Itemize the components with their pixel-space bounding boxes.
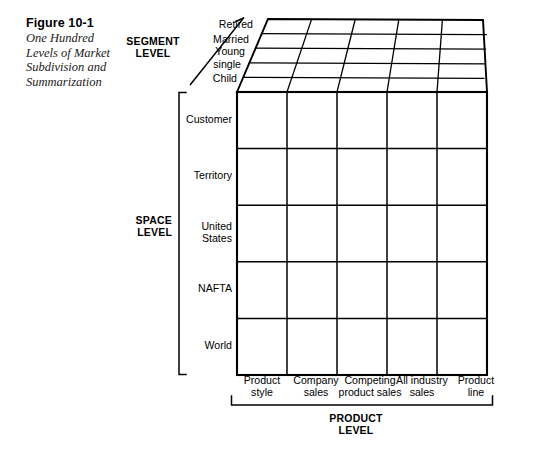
- segment-label-young: Young: [185, 46, 245, 58]
- space-label-nafta-text: NAFTA: [176, 283, 232, 295]
- top-face-col-line-3: [387, 20, 399, 92]
- segment-level-title-line-2: LEVEL: [122, 48, 184, 60]
- segment-label-retired: Retired: [193, 19, 253, 31]
- top-face-row-line-2: [249, 63, 484, 64]
- product-level-title-line-2: LEVEL: [256, 425, 456, 437]
- caption-line-4: Summarization: [26, 75, 146, 90]
- segment-label-married: Married: [189, 34, 249, 46]
- figure-number: Figure 10-1: [26, 16, 146, 30]
- space-level-axis-title: SPACE LEVEL: [120, 215, 172, 238]
- top-face-col-line-1: [287, 19, 312, 92]
- space-label-united-states: United States: [176, 221, 232, 244]
- segment-label-child-text: Child: [177, 73, 237, 85]
- segment-level-axis-title: SEGMENT LEVEL: [122, 36, 184, 59]
- space-label-nafta: NAFTA: [176, 283, 232, 295]
- segment-level-title-line-1: SEGMENT: [122, 36, 184, 48]
- figure-10-1: Figure 10-1 One Hundred Levels of Market…: [0, 0, 544, 458]
- space-label-world: World: [176, 340, 232, 352]
- top-face-outline: [237, 19, 487, 92]
- front-face-outline: [237, 92, 487, 375]
- space-label-territory: Territory: [176, 170, 232, 182]
- top-face-row-line-3: [256, 48, 486, 49]
- segment-label-married-text: Married: [189, 34, 249, 46]
- top-face-col-line-4: [437, 20, 442, 92]
- top-face-row-line-1: [243, 77, 484, 78]
- product-level-axis-title: PRODUCT LEVEL: [256, 413, 456, 436]
- space-label-customer-text: Customer: [176, 114, 232, 126]
- space-label-territory-text: Territory: [176, 170, 232, 182]
- segment-label-retired-text: Retired: [193, 19, 253, 31]
- caption-line-3: Subdivision and: [26, 60, 146, 75]
- product-label-product-line: Product line: [444, 375, 508, 398]
- segment-label-single: single: [181, 59, 241, 71]
- segment-label-young-text: Young: [185, 46, 245, 58]
- space-label-united-states-line-2: States: [176, 233, 232, 245]
- top-face-col-line-2: [337, 19, 355, 92]
- segment-label-single-text: single: [181, 59, 241, 71]
- product-label-product-line-line-2: line: [444, 387, 508, 399]
- segment-label-child: Child: [177, 73, 237, 85]
- space-label-customer: Customer: [176, 114, 232, 126]
- top-face-row-line-4: [262, 34, 486, 35]
- space-level-title-line-2: LEVEL: [120, 227, 172, 239]
- product-label-product-line-line-1: Product: [444, 375, 508, 387]
- space-label-united-states-line-1: United: [176, 221, 232, 233]
- space-level-title-line-1: SPACE: [120, 215, 172, 227]
- space-label-world-text: World: [176, 340, 232, 352]
- product-level-title-line-1: PRODUCT: [256, 413, 456, 425]
